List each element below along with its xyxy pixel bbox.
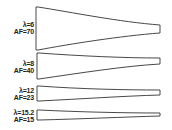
blade-2-af: AF=40	[0, 67, 34, 74]
blade-3-af: AF=23	[0, 94, 34, 101]
blade-4-outline	[37, 110, 160, 120]
blade-4-label: λ=15.2 AF=15	[0, 109, 34, 123]
blade-1-label: λ=6 AF=70	[0, 21, 34, 35]
blade-4-lambda: λ=15.2	[0, 109, 34, 116]
blade-3-label: λ=12 AF=23	[0, 87, 34, 101]
blade-3-outline	[37, 86, 160, 101]
blade-2-outline	[37, 53, 160, 79]
blade-1-lambda: λ=6	[0, 21, 34, 28]
blade-4-af: AF=15	[0, 116, 34, 123]
blade-1-af: AF=70	[0, 28, 34, 35]
blade-2-lambda: λ=8	[0, 60, 34, 67]
blade-1-outline	[36, 7, 160, 50]
blade-3-lambda: λ=12	[0, 87, 34, 94]
blade-2-label: λ=8 AF=40	[0, 60, 34, 74]
